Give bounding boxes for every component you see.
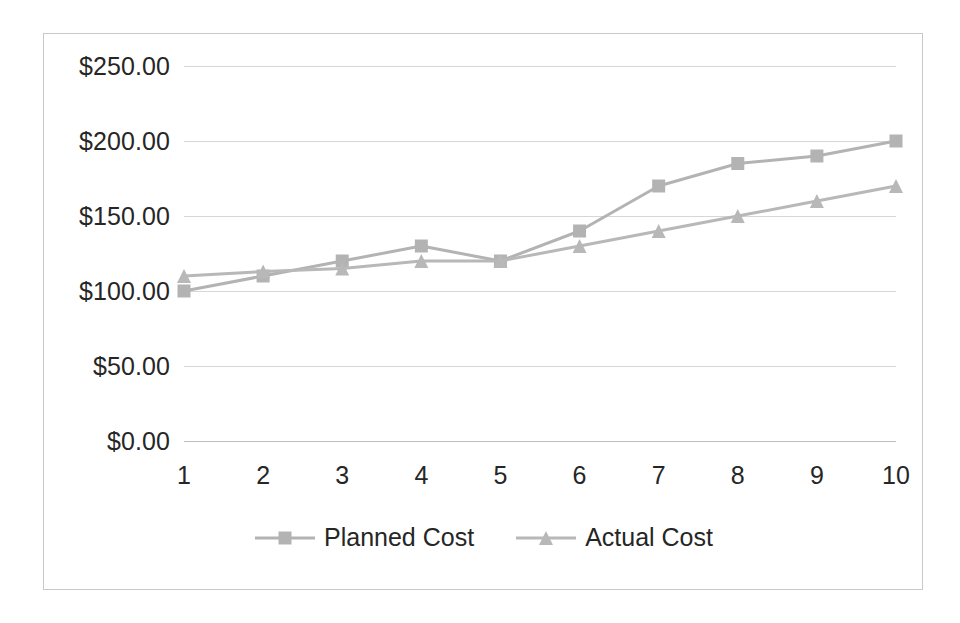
gridline: [184, 441, 896, 442]
x-axis-tick-label: 9: [810, 461, 824, 490]
x-axis-tick-label: 4: [414, 461, 428, 490]
series-line: [184, 141, 896, 291]
legend-swatch: [516, 528, 576, 548]
square-marker-icon: [652, 180, 665, 193]
square-marker-icon: [178, 285, 191, 298]
series-planned-cost: [178, 135, 903, 298]
y-axis-tick-label: $100.00: [79, 277, 170, 306]
x-axis-tick-label: 7: [652, 461, 666, 490]
series-actual-cost: [177, 179, 903, 283]
series-line: [184, 186, 896, 276]
x-axis-tick-label: 1: [177, 461, 191, 490]
x-axis-tick-label: 5: [493, 461, 507, 490]
legend-label: Planned Cost: [324, 523, 474, 552]
chart-root: $0.00$50.00$100.00$150.00$200.00$250.00 …: [0, 0, 960, 623]
x-axis-tick-label: 2: [256, 461, 270, 490]
square-marker-icon: [573, 225, 586, 238]
legend-entry-planned-cost[interactable]: Planned Cost: [255, 523, 474, 552]
x-axis-tick-label: 6: [573, 461, 587, 490]
legend-entry-actual-cost[interactable]: Actual Cost: [516, 523, 713, 552]
plot-area: $0.00$50.00$100.00$150.00$200.00$250.00 …: [184, 66, 896, 441]
y-axis-tick-label: $200.00: [79, 127, 170, 156]
x-axis-tick-label: 10: [882, 461, 910, 490]
square-marker-icon: [415, 240, 428, 253]
y-axis-tick-label: $250.00: [79, 52, 170, 81]
square-marker-icon: [810, 150, 823, 163]
chart-frame: $0.00$50.00$100.00$150.00$200.00$250.00 …: [43, 33, 923, 590]
x-axis-tick-label: 8: [731, 461, 745, 490]
y-axis-tick-label: $50.00: [93, 352, 170, 381]
y-axis-tick-label: $150.00: [79, 202, 170, 231]
square-marker-icon: [279, 531, 292, 544]
chart-legend: Planned CostActual Cost: [44, 523, 924, 552]
y-axis-tick-label: $0.00: [107, 427, 170, 456]
legend-label: Actual Cost: [585, 523, 713, 552]
x-axis-tick-label: 3: [335, 461, 349, 490]
series-plot: [184, 66, 896, 441]
square-marker-icon: [731, 157, 744, 170]
square-marker-icon: [890, 135, 903, 148]
legend-swatch: [255, 528, 315, 548]
